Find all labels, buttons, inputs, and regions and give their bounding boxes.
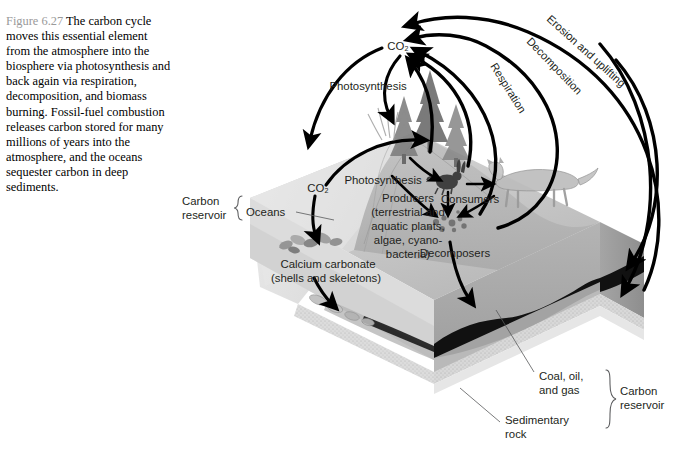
figure-page: Figure 6.27 The carbon cycle moves this … bbox=[0, 0, 685, 462]
label-photosynthesis-land: Photosynthesis bbox=[329, 80, 407, 92]
label-sedimentary-line1: Sedimentary bbox=[505, 414, 569, 426]
figure-caption-text: The carbon cycle moves this essential el… bbox=[6, 14, 170, 194]
svg-text:algae, cyano-: algae, cyano- bbox=[374, 234, 443, 246]
carbon-cycle-diagram: CO₂ Photosynthesis CO₂ Photosynthesis Re… bbox=[168, 0, 685, 462]
label-erosion-uplifting: Erosion and uplifting bbox=[545, 13, 628, 90]
label-coal-line1: Coal, oil, bbox=[539, 370, 583, 382]
svg-text:Erosion and uplifting: Erosion and uplifting bbox=[545, 13, 628, 90]
label-carbon-reservoir-right-2: reservoir bbox=[620, 399, 665, 411]
label-carbon-reservoir-right-1: Carbon bbox=[620, 385, 657, 397]
label-photosynthesis-ocean: Photosynthesis bbox=[344, 174, 422, 186]
label-atmospheric-co2: CO₂ bbox=[387, 40, 409, 52]
right-brace bbox=[606, 370, 616, 428]
label-sedimentary-line2: rock bbox=[505, 428, 527, 440]
label-respiration: Respiration bbox=[488, 61, 528, 115]
label-consumers: Consumers bbox=[441, 193, 500, 205]
block-right-face bbox=[600, 222, 644, 340]
sediment-leader-line bbox=[460, 388, 500, 422]
svg-text:(shells and skeletons): (shells and skeletons) bbox=[271, 272, 381, 284]
arrow-co2-to-ocean bbox=[310, 48, 382, 140]
svg-text:(terrestrial and: (terrestrial and bbox=[371, 206, 444, 218]
svg-text:Respiration: Respiration bbox=[488, 61, 528, 115]
figure-number: Figure 6.27 bbox=[6, 14, 63, 28]
svg-text:Carbon: Carbon bbox=[182, 195, 219, 207]
left-brace bbox=[234, 196, 242, 220]
figure-caption: Figure 6.27 The carbon cycle moves this … bbox=[6, 14, 174, 195]
svg-text:Calcium carbonate: Calcium carbonate bbox=[281, 258, 376, 270]
label-decomposers: Decomposers bbox=[420, 247, 491, 259]
svg-text:aquatic plants,: aquatic plants, bbox=[371, 220, 444, 232]
label-coal-line2: and gas bbox=[539, 384, 580, 396]
svg-text:reservoir: reservoir bbox=[182, 209, 227, 221]
label-ocean-co2: CO₂ bbox=[307, 182, 329, 194]
label-oceans: Oceans bbox=[246, 206, 286, 218]
svg-text:Producers: Producers bbox=[382, 192, 434, 204]
